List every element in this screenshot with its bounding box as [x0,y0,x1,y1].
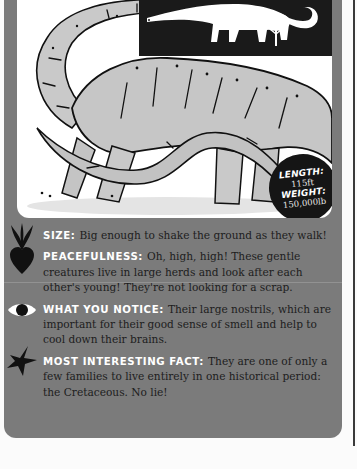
heart-icon [9,247,35,275]
fact-peacefulness: PEACEFULNESS:Oh, high, high! These gentl… [4,249,342,295]
fact-what-you-notice: WHAT YOU NOTICE:Their large nostrils, wh… [4,302,342,348]
fact-text: Big enough to shake the ground as they w… [80,229,327,241]
fact-size: SIZE:Big enough to shake the ground as t… [4,228,342,243]
fact-label: MOST INTERESTING FACT: [43,356,204,367]
dinosaur-fact-card: LENGTH: 115ft WEIGHT: 150,000lb SIZE:Big… [4,0,342,438]
fact-label: PEACEFULNESS: [43,251,143,262]
tree-icon [139,0,332,56]
eye-icon [7,302,37,318]
fact-label: SIZE: [43,230,76,241]
illustration-panel: LENGTH: 115ft WEIGHT: 150,000lb [17,0,332,218]
facts-list: SIZE:Big enough to shake the ground as t… [4,228,342,406]
adjacent-card-edge [353,0,355,446]
fact-most-interesting: MOST INTERESTING FACT:They are one of on… [4,354,342,400]
size-comparison-box [139,0,332,56]
star-icon [6,346,38,376]
fact-label: WHAT YOU NOTICE: [43,304,164,315]
